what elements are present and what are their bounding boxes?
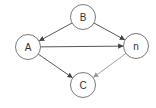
edge-a-to-c bbox=[38, 54, 72, 78]
graph-diagram: B A n C bbox=[0, 0, 156, 108]
node-n[interactable]: n bbox=[124, 34, 149, 59]
edges-group bbox=[38, 23, 126, 78]
node-b-label: B bbox=[80, 12, 87, 23]
node-b[interactable]: B bbox=[71, 5, 96, 30]
edge-n-to-c bbox=[93, 53, 125, 77]
edge-a-to-n bbox=[41, 46, 124, 47]
node-c[interactable]: C bbox=[71, 73, 96, 98]
node-c-label: C bbox=[79, 80, 86, 91]
edge-b-to-a bbox=[39, 23, 72, 41]
node-n-label: n bbox=[133, 41, 139, 52]
edge-b-to-n bbox=[94, 23, 125, 40]
node-a[interactable]: A bbox=[16, 35, 41, 60]
node-a-label: A bbox=[25, 42, 32, 53]
